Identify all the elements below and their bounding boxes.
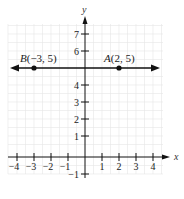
x-tick-label: 4 — [151, 161, 156, 172]
x-tick-label: −4 — [9, 161, 20, 172]
point-a-coords: (2, 5) — [111, 52, 135, 65]
y-axis-arrow-icon — [83, 16, 88, 24]
y-tick-label: 3 — [74, 97, 79, 108]
line-left-arrow-icon — [10, 65, 19, 72]
x-tick-label: 3 — [134, 161, 139, 172]
y-tick-label: 6 — [74, 46, 79, 57]
point-b-label: B(−3, 5) — [20, 52, 57, 65]
x-tick-label: −3 — [26, 161, 37, 172]
line-right-arrow-icon — [151, 65, 160, 72]
point-a — [116, 65, 121, 70]
point-b-coords: (−3, 5) — [27, 52, 57, 65]
x-tick-label: 2 — [117, 161, 122, 172]
x-tick-label: 1 — [100, 161, 105, 172]
y-tick-label: 7 — [74, 29, 79, 40]
point-a-label: A(2, 5) — [103, 52, 135, 65]
y-tick-label: 4 — [74, 80, 79, 91]
x-axis-label: x — [173, 151, 179, 162]
y-axis: 7 6 4 3 2 1 −1 y — [68, 4, 89, 180]
point-b — [31, 65, 36, 70]
y-tick-label: −1 — [68, 169, 79, 180]
x-tick-label: −2 — [43, 161, 54, 172]
y-tick-label: 1 — [74, 131, 79, 142]
y-axis-label: y — [81, 4, 87, 15]
y-tick-label: 2 — [74, 114, 79, 125]
coordinate-plane: −4 −3 −2 −1 1 2 3 4 x 7 6 4 3 2 1 −1 y — [0, 0, 184, 199]
x-axis-arrow-icon — [162, 155, 170, 160]
